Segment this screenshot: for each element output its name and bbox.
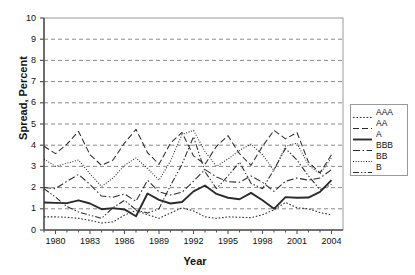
y-tick-label: 6 — [10, 98, 36, 107]
legend-item-AA: AA — [352, 118, 405, 129]
y-tick-label: 2 — [10, 183, 36, 192]
legend-item-BB: BB — [352, 151, 405, 162]
legend-line-sample-icon — [352, 163, 373, 172]
y-tick-label: 8 — [10, 56, 36, 65]
y-tick-label: 0 — [10, 226, 36, 235]
y-tick-label: 3 — [10, 162, 36, 171]
legend-item-B: B — [352, 162, 405, 173]
legend-item-A: A — [352, 129, 405, 140]
y-tick-label: 4 — [10, 141, 36, 150]
y-tick-label: 5 — [10, 120, 36, 129]
legend-line-sample-icon — [352, 152, 373, 161]
legend-line-sample-icon — [352, 108, 373, 117]
chart-legend: AAAAAABBBBBB — [350, 104, 408, 176]
legend-item-AAA: AAA — [352, 107, 405, 118]
legend-label: AA — [373, 119, 387, 128]
legend-line-sample-icon — [352, 119, 373, 128]
legend-label: A — [373, 130, 382, 139]
legend-label: BB — [373, 152, 387, 161]
y-tick-label: 10 — [10, 14, 36, 23]
legend-label: AAA — [373, 108, 393, 117]
legend-label: BBB — [373, 141, 393, 150]
y-tick-label: 7 — [10, 77, 36, 86]
x-tick-label: 2004 — [312, 237, 352, 246]
chart-figure: Spread, Percent Year 012345678910 198019… — [0, 0, 415, 275]
legend-label: B — [373, 163, 382, 172]
y-tick-label: 1 — [10, 204, 36, 213]
y-tick-label: 9 — [10, 35, 36, 44]
legend-line-sample-icon — [352, 130, 373, 139]
legend-item-BBB: BBB — [352, 140, 405, 151]
legend-line-sample-icon — [352, 141, 373, 150]
